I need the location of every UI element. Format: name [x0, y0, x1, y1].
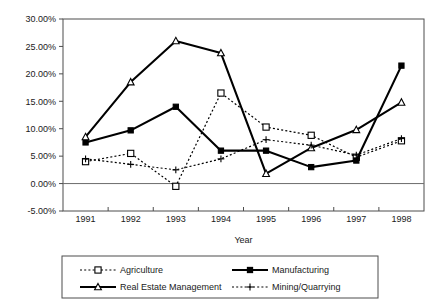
data-point — [354, 158, 359, 163]
data-point — [218, 148, 223, 153]
x-axis-tick-label: 1997 — [346, 214, 366, 224]
data-point — [173, 104, 178, 109]
x-axis-tick-label: 1994 — [211, 214, 231, 224]
y-axis-tick-label: 20.00% — [25, 69, 56, 79]
legend-label: Agriculture — [120, 265, 163, 275]
y-axis-tick-label: 0.00% — [30, 179, 56, 189]
data-point — [308, 132, 314, 138]
y-axis-tick-label: 10.00% — [25, 124, 56, 134]
y-axis-tick-label: 5.00% — [30, 151, 56, 161]
data-point — [263, 124, 269, 130]
y-axis-tick-label: 15.00% — [25, 97, 56, 107]
data-point — [128, 128, 133, 133]
x-axis-title: Year — [234, 235, 252, 245]
y-axis-tick-label: -5.00% — [27, 206, 56, 216]
legend-item-real-estate-management[interactable]: Real Estate Management — [80, 282, 222, 292]
chart-container: 30.00%25.00%20.00%15.00%10.00%5.00%0.00%… — [0, 0, 432, 307]
legend-swatch-marker — [95, 267, 101, 273]
x-axis-tick-label: 1993 — [166, 214, 186, 224]
data-point — [83, 140, 88, 145]
data-point — [399, 63, 404, 68]
legend-label: Mining/Quarrying — [272, 282, 341, 292]
data-point — [263, 148, 268, 153]
series-agriculture — [82, 90, 404, 189]
legend-item-manufacturing[interactable]: Manufacturing — [232, 265, 329, 275]
data-point — [218, 90, 224, 96]
y-axis-tick-label: 25.00% — [25, 42, 56, 52]
line-chart: 30.00%25.00%20.00%15.00%10.00%5.00%0.00%… — [0, 0, 432, 307]
x-axis-tick-label: 1992 — [121, 214, 141, 224]
data-point — [173, 183, 179, 189]
legend-label: Real Estate Management — [120, 282, 222, 292]
data-point — [128, 150, 134, 156]
x-axis-tick-label: 1998 — [391, 214, 411, 224]
x-axis-tick-label: 1991 — [76, 214, 96, 224]
legend-item-agriculture[interactable]: Agriculture — [80, 265, 163, 275]
data-point — [309, 165, 314, 170]
series-line — [86, 93, 402, 186]
x-axis-tick-label: 1996 — [301, 214, 321, 224]
legend-label: Manufacturing — [272, 265, 329, 275]
y-axis-tick-label: 30.00% — [25, 14, 56, 24]
legend-item-mining-quarrying[interactable]: Mining/Quarrying — [232, 282, 341, 292]
data-point — [398, 99, 405, 105]
x-axis-tick-label: 1995 — [256, 214, 276, 224]
legend-swatch-marker — [247, 267, 252, 272]
